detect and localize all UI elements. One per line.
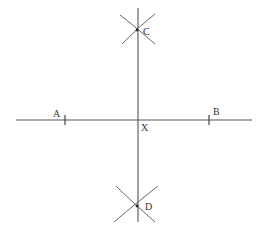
label-x: X	[141, 122, 149, 133]
label-d: D	[145, 201, 152, 212]
label-c: C	[143, 26, 150, 37]
point-d-dot	[136, 205, 139, 208]
label-b: B	[213, 106, 220, 117]
point-c-dot	[136, 29, 139, 32]
label-a: A	[53, 108, 61, 119]
bisector-diagram: A B X C D	[0, 0, 267, 231]
